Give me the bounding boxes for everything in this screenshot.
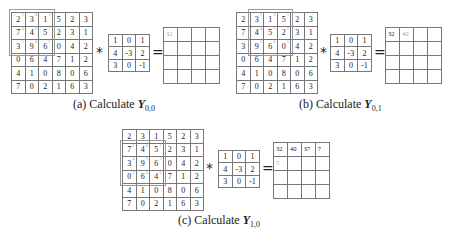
input-cell: 1 <box>304 26 318 40</box>
output-cell <box>427 56 441 70</box>
input-cell: 7 <box>52 53 66 67</box>
kernel-weight-overlay: -1 <box>286 40 289 44</box>
input-value: 7 <box>282 55 286 64</box>
input-value: 1 <box>181 172 185 181</box>
input-cell: 0 <box>66 67 80 81</box>
input-cell: 52 <box>39 26 53 40</box>
input-value: 3 <box>241 42 245 51</box>
input-value: 0 <box>30 82 34 91</box>
kernel-weight-overlay: 2 <box>160 157 162 161</box>
output-cell <box>413 56 427 70</box>
convolution-operator: * <box>206 160 213 176</box>
input-value: 0 <box>141 199 145 208</box>
input-cell: 0 <box>39 67 53 81</box>
input-value: 4 <box>127 186 131 195</box>
output-cell <box>205 42 219 56</box>
kernel-weight-overlay: 1 <box>49 13 51 17</box>
input-cell: 3 <box>79 13 93 27</box>
output-cell <box>399 70 413 84</box>
output-matrix: 32403775 <box>273 142 330 199</box>
input-value: 2 <box>181 132 185 141</box>
caption-subscript: 0,1 <box>372 104 382 113</box>
input-cell: 0 <box>25 80 39 94</box>
input-cell: 0-1 <box>277 40 291 54</box>
output-cell <box>205 70 219 84</box>
output-cell <box>315 157 329 171</box>
output-cell <box>177 28 191 42</box>
input-cell: 40 <box>136 143 150 157</box>
output-cell <box>386 56 400 70</box>
kernel-cell: 4 <box>109 47 123 59</box>
input-cell: 3 <box>136 130 150 144</box>
output-value: 40 <box>290 145 297 152</box>
input-cell: 60 <box>136 170 150 184</box>
input-cell: 4 <box>66 40 80 54</box>
output-value-current: 5 <box>276 159 279 166</box>
input-cell: 2 <box>291 13 305 27</box>
input-value: 2 <box>57 28 61 37</box>
input-value: 8 <box>57 69 61 78</box>
input-cell: 6 <box>250 53 264 67</box>
input-value: 4 <box>70 42 74 51</box>
input-value: 4 <box>255 28 259 37</box>
kernel-weight-overlay: 1 <box>287 13 289 17</box>
input-cell: 7 <box>237 80 251 94</box>
input-value: 3 <box>255 15 259 24</box>
input-value: 2 <box>43 82 47 91</box>
input-cell: 8 <box>277 67 291 81</box>
input-value: 7 <box>16 28 20 37</box>
output-cell <box>191 28 205 42</box>
input-cell: 3 <box>190 197 204 211</box>
output-value: 37 <box>304 145 311 152</box>
kernel-weight-overlay: -3 <box>34 27 37 31</box>
kernel-cell: 0 <box>344 35 358 47</box>
input-value: 1 <box>255 69 259 78</box>
kernel-cell: -3 <box>122 47 136 59</box>
input-cell: 4 <box>177 157 191 171</box>
kernel-cell: 0 <box>122 35 136 47</box>
input-cell: 8 <box>163 184 177 198</box>
output-cell <box>413 28 427 42</box>
kernel-cell: 2 <box>136 47 150 59</box>
kernel-cell: 0 <box>122 59 136 71</box>
input-cell: 60 <box>264 40 278 54</box>
input-value: 2 <box>16 15 20 24</box>
input-cell: 6 <box>177 197 191 211</box>
input-value: 2 <box>168 145 172 154</box>
input-cell: 0 <box>52 40 66 54</box>
output-cell <box>177 70 191 84</box>
output-cell <box>287 171 301 185</box>
input-value: 4 <box>295 42 299 51</box>
input-value: 6 <box>141 172 145 181</box>
input-cell: 2 <box>66 13 80 27</box>
input-value: 4 <box>268 55 272 64</box>
output-cell <box>399 42 413 56</box>
output-cell <box>427 28 441 42</box>
input-value: 7 <box>57 55 61 64</box>
input-value: 3 <box>295 28 299 37</box>
output-value: 7 <box>318 145 321 152</box>
input-cell: 34 <box>123 157 137 171</box>
output-value-current: 32 <box>166 30 173 37</box>
caption-subscript: 1,0 <box>250 220 260 229</box>
input-value: 4 <box>16 69 20 78</box>
input-value: 2 <box>282 28 286 37</box>
input-value: 4 <box>181 159 185 168</box>
input-value: 6 <box>295 82 299 91</box>
output-cell <box>386 42 400 56</box>
input-cell: 4 <box>39 53 53 67</box>
input-value: 1 <box>43 15 47 24</box>
kernel-weight-overlay: -1 <box>47 40 50 44</box>
caption-text: (c) Calculate <box>178 213 243 227</box>
input-cell: 9-3 <box>136 157 150 171</box>
input-cell: 0 <box>177 184 191 198</box>
input-value: 0 <box>181 186 185 195</box>
output-matrix: 3240 <box>385 27 442 84</box>
kernel-weight-overlay: 4 <box>133 157 135 161</box>
kernel-weight-overlay: 0 <box>274 13 276 17</box>
kernel-cell: 0 <box>344 59 358 71</box>
input-cell: 4 <box>291 40 305 54</box>
output-cell <box>177 56 191 70</box>
output-matrix: 32 <box>163 27 220 84</box>
kernel-weight-overlay: 3 <box>22 40 24 44</box>
